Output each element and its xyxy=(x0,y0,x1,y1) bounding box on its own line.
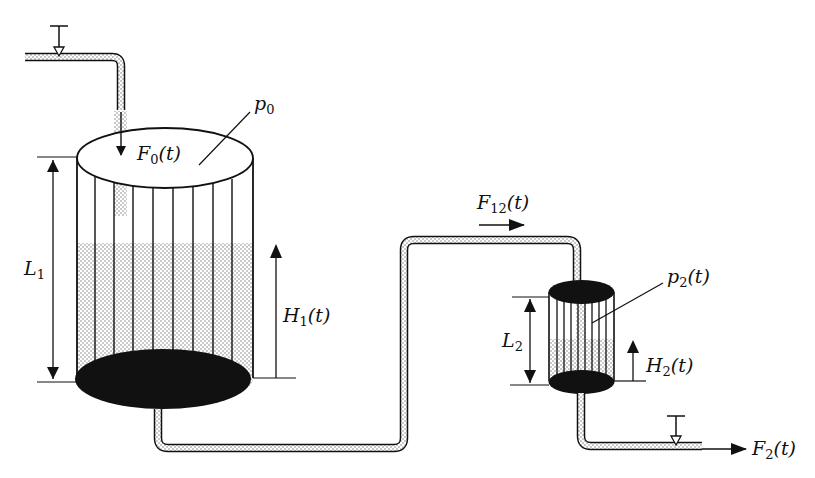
outlet-pipe xyxy=(581,393,702,446)
label-F12: F12(t) xyxy=(476,191,529,216)
label-L2: L2 xyxy=(501,329,523,354)
H2-dimension xyxy=(614,340,646,381)
label-L1: L1 xyxy=(23,257,45,282)
label-p0: p0 xyxy=(254,92,274,117)
two-tank-diagram: F0(t) p0 L1 H1(t) F12(t) xyxy=(0,0,815,478)
inlet-valve-icon[interactable] xyxy=(50,26,68,56)
label-H1: H1(t) xyxy=(282,304,330,329)
label-p2: p2(t) xyxy=(667,265,710,290)
inlet-pipe xyxy=(25,57,121,110)
label-H2: H2(t) xyxy=(645,354,693,379)
label-F2: F2(t) xyxy=(751,437,796,462)
tank-1 xyxy=(75,128,253,409)
outlet-valve-icon[interactable] xyxy=(667,416,685,445)
tank-2 xyxy=(549,280,615,394)
label-F0: F0(t) xyxy=(136,142,181,167)
